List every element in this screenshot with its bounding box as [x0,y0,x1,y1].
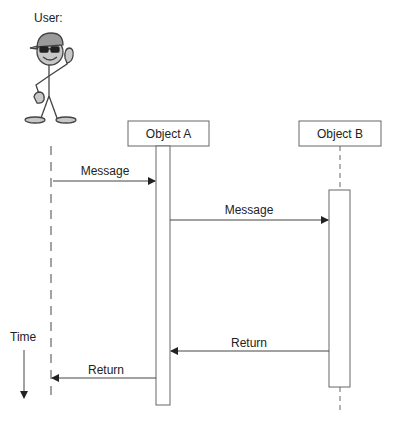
actor-label: User: [34,11,63,25]
return-label: Return [231,336,267,350]
object-b: Object B [299,121,381,410]
return-b-to-a: Return [171,336,329,351]
message-user-to-a: Message [53,164,155,181]
time-label: Time [10,330,37,344]
time-axis: Time [10,330,37,398]
object-a-label: Object A [146,127,191,141]
sequence-diagram: User: Object A Obj [0,0,397,422]
object-a: Object A [128,121,209,405]
message-label: Message [81,164,130,178]
return-a-to-user: Return [52,363,156,378]
object-b-activation-bar [329,190,350,387]
message-a-to-b: Message [170,203,328,220]
object-a-activation-bar [156,146,170,405]
object-b-label: Object B [317,127,363,141]
message-label: Message [225,203,274,217]
return-label: Return [88,363,124,377]
user-stick-figure-icon [25,33,76,123]
